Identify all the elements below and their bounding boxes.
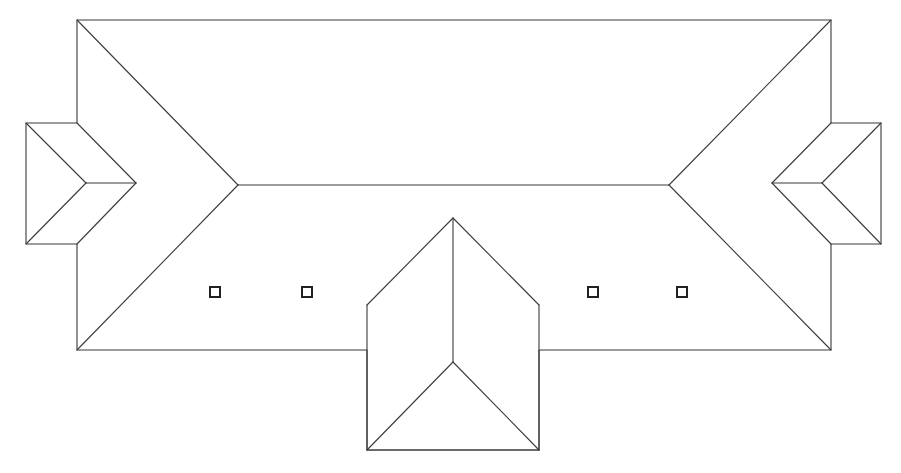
left-wing-line bbox=[26, 183, 86, 244]
gable-line bbox=[367, 362, 453, 450]
skylight-icon bbox=[677, 287, 687, 297]
hip-line bbox=[669, 20, 831, 185]
right-wing-line bbox=[822, 123, 881, 183]
skylight-icon bbox=[302, 287, 312, 297]
main-hip-roof bbox=[77, 20, 831, 350]
gable-line bbox=[367, 218, 453, 305]
roof-plan-drawing bbox=[0, 0, 901, 473]
right-wing-line bbox=[772, 123, 831, 183]
hip-line bbox=[669, 185, 831, 350]
front-gable-roof bbox=[367, 218, 539, 450]
left-wing-line bbox=[77, 123, 136, 183]
right-wing-roof bbox=[772, 123, 881, 244]
skylights bbox=[210, 287, 687, 297]
right-wing-line bbox=[822, 183, 881, 244]
hip-line bbox=[77, 185, 238, 350]
left-wing-line bbox=[26, 123, 86, 183]
skylight-icon bbox=[210, 287, 220, 297]
hip-line bbox=[77, 20, 238, 185]
left-wing-line bbox=[77, 183, 136, 244]
roof-plan-svg bbox=[0, 0, 901, 473]
skylight-icon bbox=[588, 287, 598, 297]
gable-line bbox=[453, 218, 539, 305]
gable-line bbox=[453, 362, 539, 450]
left-wing-roof bbox=[26, 123, 136, 244]
right-wing-line bbox=[772, 183, 831, 244]
